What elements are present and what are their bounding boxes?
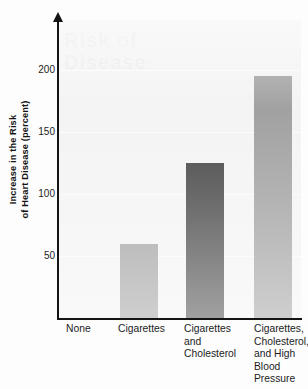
bar-cigarettes-and-cholesterol (186, 163, 224, 318)
x-label-cigarettes-cholesterol-high-blood-pressure: Cigarettes, Cholesterol, and High Blood … (254, 323, 308, 386)
ghost-watermark-text: Risk of Disease (64, 29, 284, 73)
y-tick-label-150: 150 (19, 127, 55, 137)
y-axis-line (57, 20, 59, 319)
bar-cigarettes (120, 244, 158, 319)
x-label-none: None (66, 323, 91, 336)
plot-area: Risk of Disease (58, 20, 301, 318)
gridline-200 (58, 70, 301, 71)
x-label-cigarettes-and-cholesterol: Cigarettes and Cholesterol (184, 323, 236, 361)
y-tick-label-200: 200 (19, 65, 55, 75)
x-axis-line (57, 318, 302, 320)
y-tick-label-50: 50 (19, 251, 55, 261)
y-axis-tick-labels: 200 150 100 50 (18, 0, 55, 389)
ghost-watermark-line-1: Risk of (64, 29, 284, 51)
x-label-cigarettes: Cigarettes (118, 323, 165, 336)
y-tick-label-100: 100 (19, 189, 55, 199)
bar-chart-figure: Increase in the Risk of Heart Disease (p… (0, 0, 308, 389)
bar-cigarettes-cholesterol-high-blood-pressure (254, 76, 292, 318)
x-axis-category-labels: None Cigarettes Cigarettes and Cholester… (58, 323, 308, 389)
y-axis-arrow-icon (53, 12, 63, 22)
